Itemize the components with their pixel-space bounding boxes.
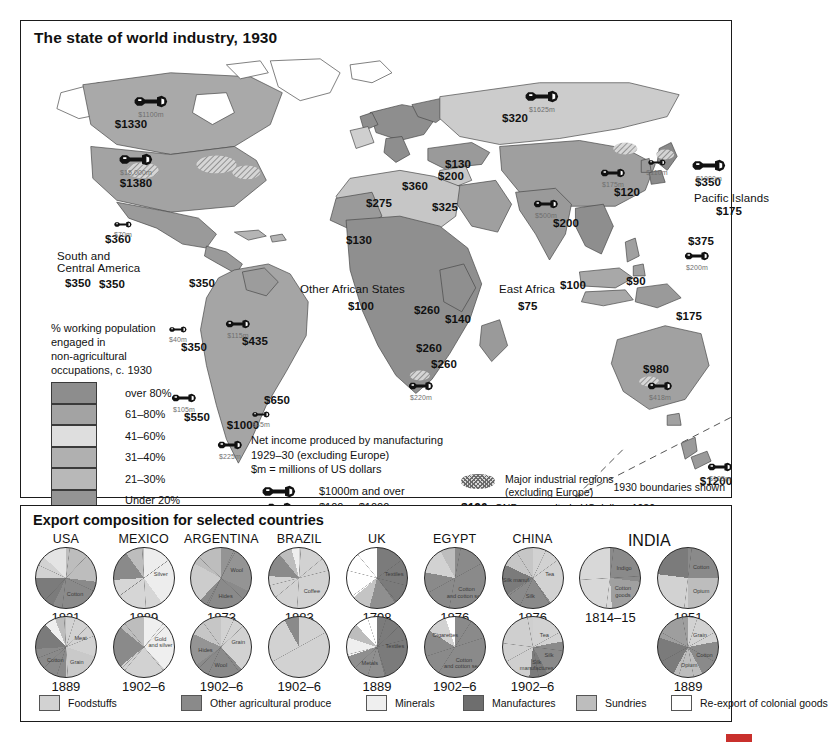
wrench-icon <box>692 159 726 172</box>
wrench-icon <box>114 221 132 228</box>
map-gnp-label: $320 <box>502 112 528 124</box>
pie-slice-label: Opium <box>681 662 697 668</box>
manufacturing-wrench-marker <box>692 158 726 176</box>
map-gnp-label: $200 <box>438 170 464 182</box>
manufacturing-amount-label: $45m <box>252 421 270 428</box>
pie-chart: Silver <box>113 547 175 609</box>
map-gnp-label: $1330 <box>115 118 147 130</box>
pie-legend-item: Re-export of colonial goods <box>671 695 828 711</box>
pie-legend-swatch <box>671 695 692 711</box>
map-gnp-label: $350 <box>189 277 215 289</box>
pie-chart: CottonOpium <box>657 547 719 609</box>
pie-legend-label: Minerals <box>395 697 435 709</box>
pie-year-label: 1902–6 <box>487 679 579 694</box>
pie-slice-divider <box>191 548 251 608</box>
map-gnp-label: $325 <box>432 201 458 213</box>
choropleth-swatch <box>51 404 97 426</box>
map-gnp-label: $140 <box>445 313 471 325</box>
pie-slice-label: Tea <box>540 632 549 638</box>
pie-slice-label: Indigo <box>616 565 631 571</box>
pie-slice-label: Metals <box>362 660 378 666</box>
pie-slice-divider <box>425 548 485 608</box>
map-title: The state of world industry, 1930 <box>34 29 277 47</box>
manufacturing-wrench-marker <box>525 89 559 107</box>
manufacturing-legend-caption: Net income produced by manufacturing1929… <box>251 433 443 477</box>
choropleth-legend-item: 61–80% <box>51 404 236 426</box>
pie-cell: GrainCottonOpium1889 <box>642 616 734 694</box>
map-region-gnp-value: $175 <box>716 205 742 217</box>
pie-legend-swatch <box>463 695 484 711</box>
map-gnp-label: $260 <box>414 304 440 316</box>
choropleth-swatch <box>51 468 97 490</box>
pie-legend-item: Manufactures <box>463 695 556 711</box>
pie-slice-label: Cigarettes <box>433 631 459 637</box>
manufacturing-amount-label: $1000m <box>696 175 722 182</box>
manufacturing-wrench-marker <box>252 404 270 422</box>
boundaries-note: 1930 boundaries shown <box>613 481 725 493</box>
pie-chart: IndigoCottongoods <box>579 547 641 609</box>
choropleth-swatch <box>51 425 97 447</box>
map-gnp-label: $980 <box>643 363 669 375</box>
pie-chart <box>268 616 330 678</box>
pie-slice-label: Textiles <box>386 643 405 649</box>
legend-caption-line: 1929–30 (excluding Europe) <box>251 448 443 463</box>
manufacturing-wrench-marker <box>409 377 434 395</box>
pie-chart: Cotton <box>35 547 97 609</box>
choropleth-legend: % working populationengaged innon-agricu… <box>51 321 236 533</box>
manufacturing-amount-label: $70m <box>114 231 132 238</box>
map-region-gnp-value: $100 <box>348 300 374 312</box>
pie-slice-divider <box>36 617 96 677</box>
manufacturing-amount-label: $200m <box>686 264 708 271</box>
pie-slice-divider <box>269 548 329 608</box>
regions-legend-line: Major industrial regions <box>505 473 614 486</box>
wrench-size-icon <box>251 485 307 498</box>
pie-chart: TeaSilkSilk manuf. <box>502 547 564 609</box>
export-composition-panel: Export composition for selected countrie… <box>20 505 732 722</box>
pie-slice-label: Grain <box>693 632 707 638</box>
legend-caption-line: $m = millions of US dollars <box>251 462 443 477</box>
wrench-icon <box>708 462 733 472</box>
wrench-icon <box>252 411 270 418</box>
map-gnp-label: $175 <box>676 310 702 322</box>
map-region-gnp-value: $350 <box>65 277 91 289</box>
pie-chart: TeaSilkSilkmanufactures <box>502 616 564 678</box>
manufacturing-amount-label: $175m <box>602 181 624 188</box>
manufacturing-legend-item: $1000m and over <box>251 484 443 499</box>
pie-chart: Coffee <box>268 547 330 609</box>
pie-chart: Cottonand cotton seedCigarettes <box>424 616 486 678</box>
pie-legend-label: Manufactures <box>492 697 556 709</box>
choropleth-legend-item: 21–30% <box>51 468 236 490</box>
choropleth-swatch <box>51 382 97 404</box>
wrench-icon <box>134 95 168 108</box>
wrench-icon <box>409 381 434 391</box>
pie-legend-label: Re-export of colonial goods <box>700 697 828 709</box>
pie-slice-label: Coffee <box>304 588 320 594</box>
manufacturing-wrench-marker <box>708 458 733 476</box>
pie-panel-title: Export composition for selected countrie… <box>33 512 324 528</box>
pie-slice-label: Cotton <box>67 591 83 597</box>
pie-slice-divider <box>269 617 329 677</box>
choropleth-label: 21–30% <box>125 473 165 485</box>
map-gnp-label: $260 <box>431 358 457 370</box>
map-region-name: Other African States <box>300 283 405 295</box>
pie-slice-label: Textiles <box>385 571 404 577</box>
choropleth-legend-item: 31–40% <box>51 447 236 469</box>
pie-legend-label: Other agricultural produce <box>210 697 331 709</box>
map-gnp-label: $100 <box>560 279 586 291</box>
pie-slice-label: Hides <box>218 592 232 598</box>
pie-legend-item: Other agricultural produce <box>181 695 331 711</box>
map-gnp-label: $130 <box>445 158 471 170</box>
choropleth-label: 31–40% <box>125 451 165 463</box>
pie-legend-item: Foodstuffs <box>39 695 117 711</box>
manufacturing-amount-label: $418m <box>649 394 671 401</box>
pie-chart: GrainWoolHides <box>190 616 252 678</box>
industrial-region-swatch-icon <box>461 474 495 489</box>
pie-chart: MeatGrainCotton <box>35 616 97 678</box>
pie-legend-swatch <box>181 695 202 711</box>
pie-slice-label: Opium <box>693 588 709 594</box>
pie-slice-label: Silk <box>526 592 535 598</box>
pie-slice-divider <box>580 548 640 608</box>
manufacturing-wrench-marker <box>648 377 673 395</box>
industrial-regions-legend-text: Major industrial regions(excluding Europ… <box>505 473 614 498</box>
wrench-icon <box>525 90 559 103</box>
